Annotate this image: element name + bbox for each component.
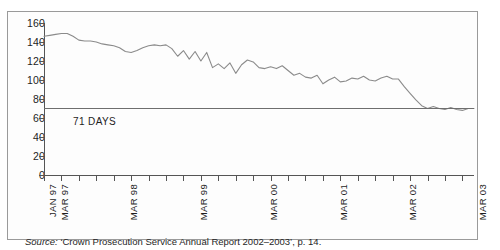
series-polyline: [44, 33, 474, 110]
x-tick-mark: [393, 176, 394, 181]
x-tick-mark: [375, 176, 376, 181]
x-tick-mark: [305, 176, 306, 181]
x-tick-mark: [149, 176, 150, 181]
x-tick-mark: [271, 176, 272, 181]
x-tick-mark: [288, 176, 289, 181]
x-tick-label: JAN 97: [48, 184, 58, 217]
x-tick-label: MAR 03: [478, 184, 488, 220]
x-tick-mark: [79, 176, 80, 181]
x-tick-mark: [410, 176, 411, 181]
x-tick-mark: [131, 176, 132, 181]
source-label: Source:: [25, 236, 58, 247]
x-tick-mark: [340, 176, 341, 181]
x-tick-mark: [253, 176, 254, 181]
x-tick-mark: [445, 176, 446, 181]
figure-frame: 020406080100120140160 71 DAYS Source: ‘C…: [7, 11, 478, 240]
source-note: Source: ‘Crown Prosecution Service Annua…: [25, 236, 321, 247]
x-tick-label: MAR 98: [129, 184, 139, 220]
x-tick-label: MAR 00: [269, 184, 279, 220]
x-tick-mark: [358, 176, 359, 181]
x-tick-mark: [183, 176, 184, 181]
x-tick-mark: [96, 176, 97, 181]
x-tick-mark: [236, 176, 237, 181]
x-tick-mark: [166, 176, 167, 181]
x-tick-mark: [218, 176, 219, 181]
x-tick-mark: [61, 176, 62, 181]
reference-line-71-days: [44, 108, 474, 109]
x-tick-label: MAR 97: [60, 184, 70, 220]
x-tick-mark: [44, 176, 45, 181]
x-tick-mark: [428, 176, 429, 181]
x-tick-mark: [323, 176, 324, 181]
x-tick-label: MAR 02: [408, 184, 418, 220]
x-tick-label: MAR 99: [199, 184, 209, 220]
x-tick-mark: [201, 176, 202, 181]
x-tick-mark: [462, 176, 463, 181]
x-tick-label: MAR 01: [339, 184, 349, 220]
reference-line-label: 71 DAYS: [73, 117, 116, 127]
source-text: ‘Crown Prosecution Service Annual Report…: [58, 236, 322, 247]
x-tick-mark: [114, 176, 115, 181]
